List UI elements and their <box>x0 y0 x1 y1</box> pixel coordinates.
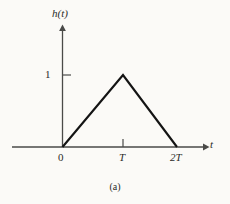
x-tick-label-0: 0 <box>58 152 64 163</box>
y-tick-label-1: 1 <box>45 69 51 80</box>
plot-canvas <box>0 0 230 204</box>
x-tick-label-T: T <box>119 152 125 163</box>
figure-caption: (a) <box>0 182 230 192</box>
signal-trace-h-of-t <box>63 75 178 147</box>
y-axis-arrow-icon <box>59 25 66 32</box>
x-axis-label: t <box>210 139 213 150</box>
y-axis-label: h(t) <box>52 8 68 19</box>
x-tick-label-2t: 2T <box>170 152 182 163</box>
figure-panel: h(t) t 1 0 T 2T (a) <box>0 0 230 204</box>
x-axis-arrow-icon <box>203 144 210 151</box>
